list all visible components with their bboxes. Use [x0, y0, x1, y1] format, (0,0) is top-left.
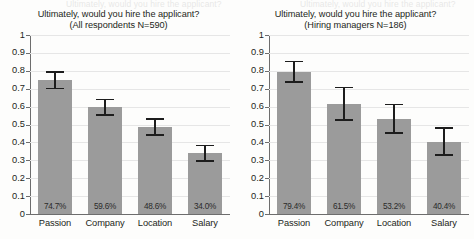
error-bar-cap-lower: [46, 88, 64, 90]
x-axis-category-label: Salary: [178, 218, 232, 228]
x-axis-labels-right: PassionCompanyLocationSalary: [269, 216, 469, 236]
bar[interactable]: 79.4%: [277, 72, 311, 214]
error-bar-cap-lower: [196, 160, 214, 162]
y-axis-label: 0.3: [1, 156, 25, 165]
error-bar-cap-upper: [46, 71, 64, 73]
chart-title-line1: Ultimately, would you hire the applicant…: [237, 9, 474, 20]
y-axis-label: 1: [1, 31, 25, 40]
bar-value-label: 48.6%: [138, 202, 172, 211]
y-axis-tick: [265, 214, 269, 215]
error-bar: [393, 105, 395, 133]
error-bar-cap-lower: [435, 154, 453, 156]
y-axis-label: 0.7: [1, 84, 25, 93]
bars-right: 79.4%61.5%53.2%40.4%: [269, 35, 469, 214]
bar-group[interactable]: 53.2%: [377, 35, 411, 214]
error-bar-cap-upper: [435, 127, 453, 129]
y-axis-label: 0.9: [1, 48, 25, 57]
error-bar-cap-upper: [96, 99, 114, 101]
y-axis-label: 0.3: [240, 156, 264, 165]
x-axis-category-label: Passion: [267, 218, 321, 228]
y-axis-label: 1: [240, 31, 264, 40]
figure-sheet: Ultimately, would you hire the applicant…: [0, 0, 474, 239]
plot-area-left: 74.7%59.6%48.6%34.0%: [30, 35, 230, 214]
y-axis-label: 0.8: [240, 66, 264, 75]
error-bar: [154, 119, 156, 135]
x-axis-category-label: Location: [128, 218, 182, 228]
bar-group[interactable]: 40.4%: [427, 35, 461, 214]
bar-group[interactable]: 74.7%: [38, 35, 72, 214]
y-axis-label: 0.1: [240, 192, 264, 201]
y-axis-label: 0.8: [1, 66, 25, 75]
chart-title-line1: Ultimately, would you hire the applicant…: [0, 9, 237, 20]
y-axis-label: 0.4: [1, 138, 25, 147]
bar-value-label: 74.7%: [38, 202, 72, 211]
x-axis-category-label: Company: [78, 218, 132, 228]
error-bar-cap-lower: [335, 119, 353, 121]
y-axis-label: 0: [240, 210, 264, 219]
chart-title-left: Ultimately, would you hire the applicant…: [0, 9, 237, 30]
error-bar-cap-lower: [96, 114, 114, 116]
x-axis-baseline: [269, 214, 469, 215]
bar-value-label: 34.0%: [188, 202, 222, 211]
bar[interactable]: 48.6%: [138, 127, 172, 214]
x-axis-category-label: Company: [317, 218, 371, 228]
error-bar: [204, 145, 206, 160]
chart-title-right: Ultimately, would you hire the applicant…: [237, 9, 474, 30]
bar-group[interactable]: 48.6%: [138, 35, 172, 214]
y-axis-label: 0.9: [240, 48, 264, 57]
y-axis-label: 0.2: [240, 174, 264, 183]
x-axis-baseline: [30, 214, 230, 215]
error-bar-cap-upper: [335, 87, 353, 89]
error-bar-cap-upper: [385, 104, 403, 106]
chart-subtitle: (All respondents N=590): [0, 20, 237, 31]
chart-panel-all-respondents: Ultimately, would you hire the applicant…: [0, 0, 237, 239]
y-axis-label: 0: [1, 210, 25, 219]
bar-value-label: 53.2%: [377, 202, 411, 211]
y-axis-label: 0.5: [1, 120, 25, 129]
bar-group[interactable]: 59.6%: [88, 35, 122, 214]
bar-value-label: 59.6%: [88, 202, 122, 211]
y-axis-label: 0.5: [240, 120, 264, 129]
y-axis-label: 0.6: [240, 102, 264, 111]
error-bar-cap-upper: [146, 118, 164, 120]
error-bar-cap-lower: [385, 132, 403, 134]
chart-panel-hiring-managers: Ultimately, would you hire the applicant…: [237, 0, 474, 239]
error-bar-cap-upper: [285, 61, 303, 63]
bar[interactable]: 34.0%: [188, 153, 222, 214]
error-bar-cap-lower: [146, 134, 164, 136]
error-bar: [343, 88, 345, 121]
bar[interactable]: 59.6%: [88, 107, 122, 214]
plot-area-right: 79.4%61.5%53.2%40.4%: [269, 35, 469, 214]
bar-value-label: 79.4%: [277, 202, 311, 211]
y-axis-label: 0.1: [1, 192, 25, 201]
x-axis-labels-left: PassionCompanyLocationSalary: [30, 216, 230, 236]
y-axis-label: 0.7: [240, 84, 264, 93]
y-axis-label: 0.6: [1, 102, 25, 111]
error-bar: [104, 99, 106, 115]
y-axis-label: 0.2: [1, 174, 25, 183]
error-bar: [293, 62, 295, 82]
y-axis-label: 0.4: [240, 138, 264, 147]
error-bar-cap-upper: [196, 145, 214, 147]
error-bar: [54, 72, 56, 89]
bars-left: 74.7%59.6%48.6%34.0%: [30, 35, 230, 214]
x-axis-category-label: Location: [367, 218, 421, 228]
bar-group[interactable]: 79.4%: [277, 35, 311, 214]
x-axis-category-label: Salary: [417, 218, 471, 228]
bar-group[interactable]: 34.0%: [188, 35, 222, 214]
error-bar: [443, 128, 445, 155]
bar-value-label: 61.5%: [327, 202, 361, 211]
bar-group[interactable]: 61.5%: [327, 35, 361, 214]
x-axis-category-label: Passion: [28, 218, 82, 228]
bar[interactable]: 74.7%: [38, 80, 72, 214]
bar-value-label: 40.4%: [427, 202, 461, 211]
y-axis-tick: [26, 214, 30, 215]
error-bar-cap-lower: [285, 81, 303, 83]
chart-subtitle: (Hiring managers N=186): [237, 20, 474, 31]
